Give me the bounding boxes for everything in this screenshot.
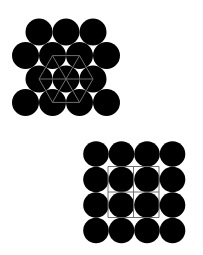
circle [109, 192, 135, 218]
circle [134, 218, 160, 244]
circle [160, 218, 186, 244]
circle [83, 218, 109, 244]
circle [134, 192, 160, 218]
packing-diagram [0, 0, 203, 255]
circle [83, 141, 109, 167]
circle [83, 167, 109, 193]
circle [12, 89, 39, 116]
circle [134, 141, 160, 167]
circle [134, 167, 160, 193]
circle [109, 167, 135, 193]
circle [93, 42, 120, 69]
circle [160, 167, 186, 193]
square-packing [83, 141, 185, 243]
circle [26, 19, 53, 46]
circle [160, 192, 186, 218]
circle [109, 218, 135, 244]
circle [12, 42, 39, 69]
circle [93, 89, 120, 116]
circle [160, 141, 186, 167]
circle [83, 192, 109, 218]
circle [53, 19, 80, 46]
circle [109, 141, 135, 167]
circle [80, 19, 107, 46]
hexagonal-packing [12, 19, 120, 117]
packing-diagram-canvas [0, 0, 203, 255]
